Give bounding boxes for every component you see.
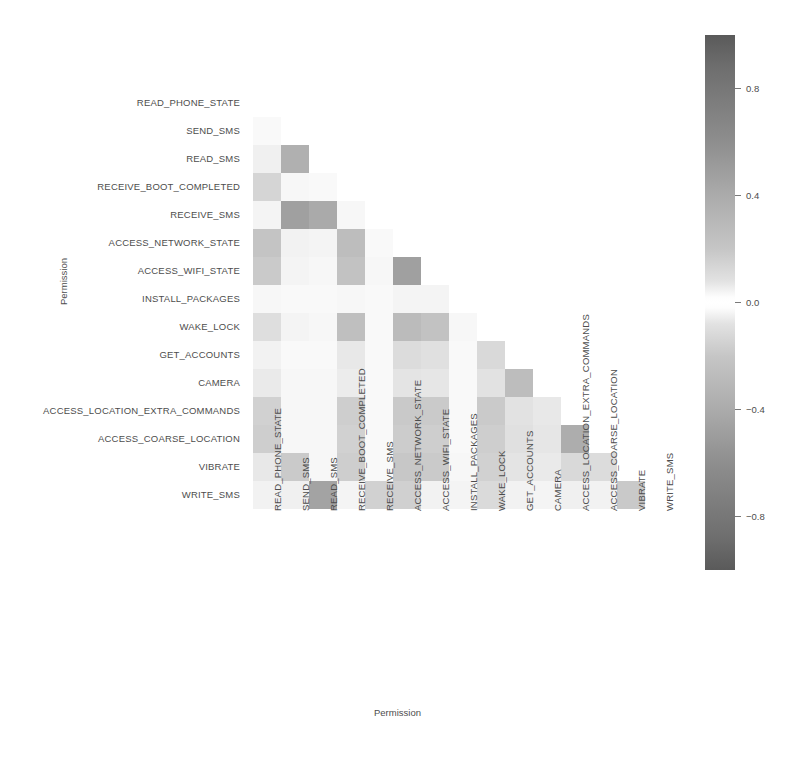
y-axis-tick-label: INSTALL_PACKAGES bbox=[142, 285, 240, 313]
heatmap-cell bbox=[281, 201, 309, 229]
heatmap-cell bbox=[253, 313, 281, 341]
x-axis-tick-label-text: SEND_SMS bbox=[300, 483, 311, 511]
x-axis-tick-label: ACCESS_NETWORK_STATE bbox=[393, 509, 421, 537]
heatmap-cell bbox=[421, 341, 449, 369]
x-axis-tick-label-text: WAKE_LOCK bbox=[496, 483, 507, 511]
heatmap-cell bbox=[253, 145, 281, 173]
x-axis-tick-label: READ_SMS bbox=[309, 509, 337, 537]
colorbar-tick-label: 0.8 bbox=[746, 83, 759, 95]
heatmap-cell bbox=[449, 369, 477, 397]
x-axis-tick-label-text: ACCESS_WIFI_STATE bbox=[440, 483, 451, 511]
heatmap-cell bbox=[309, 369, 337, 397]
heatmap-cell bbox=[253, 173, 281, 201]
x-axis-tick-label: ACCESS_COARSE_LOCATION bbox=[589, 509, 617, 537]
x-axis-tick-label-text: ACCESS_COARSE_LOCATION bbox=[608, 483, 619, 511]
x-axis-tick-label-text: ACCESS_LOCATION_EXTRA_COMMANDS bbox=[580, 483, 591, 511]
heatmap-cell bbox=[309, 257, 337, 285]
colorbar-tick: 0.0 bbox=[735, 297, 795, 309]
heatmap-cell bbox=[505, 397, 533, 425]
heatmap-cell bbox=[253, 257, 281, 285]
colorbar-tick-mark bbox=[735, 88, 741, 89]
x-axis-tick-label: WRITE_SMS bbox=[645, 509, 673, 537]
heatmap-cell bbox=[309, 201, 337, 229]
x-axis-tick-label: GET_ACCOUNTS bbox=[505, 509, 533, 537]
heatmap-cell bbox=[393, 257, 421, 285]
y-axis-tick-label: RECEIVE_BOOT_COMPLETED bbox=[97, 173, 240, 201]
heatmap-cell bbox=[281, 257, 309, 285]
y-axis-tick-label: WAKE_LOCK bbox=[179, 313, 240, 341]
colorbar-tick-mark bbox=[735, 516, 741, 517]
heatmap-cell bbox=[477, 425, 505, 453]
heatmap-cell bbox=[253, 117, 281, 145]
heatmap-cell bbox=[309, 341, 337, 369]
y-axis-tick-label: ACCESS_COARSE_LOCATION bbox=[98, 425, 240, 453]
y-axis-tick-label: VIBRATE bbox=[199, 453, 240, 481]
heatmap-cell bbox=[253, 201, 281, 229]
x-axis-tick-label: VIBRATE bbox=[617, 509, 645, 537]
heatmap-cell bbox=[365, 285, 393, 313]
colorbar-tick-mark bbox=[735, 302, 741, 303]
heatmap-cell bbox=[309, 313, 337, 341]
heatmap-cell bbox=[477, 397, 505, 425]
colorbar-tick: −0.4 bbox=[735, 404, 795, 416]
y-axis-tick-label: WRITE_SMS bbox=[182, 481, 240, 509]
heatmap-cell bbox=[309, 285, 337, 313]
x-axis-tick-label-text: VIBRATE bbox=[636, 483, 647, 511]
x-axis-tick-label-text: READ_PHONE_STATE bbox=[272, 483, 283, 511]
x-axis-tick-label: ACCESS_LOCATION_EXTRA_COMMANDS bbox=[561, 509, 589, 537]
heatmap-cell bbox=[253, 341, 281, 369]
heatmap-cell bbox=[421, 369, 449, 397]
heatmap-cell bbox=[365, 229, 393, 257]
x-axis-tick-label: CAMERA bbox=[533, 509, 561, 537]
heatmap-cell bbox=[365, 397, 393, 425]
colorbar-tick-label: −0.4 bbox=[746, 404, 765, 416]
heatmap-cell bbox=[393, 313, 421, 341]
heatmap-cell bbox=[281, 425, 309, 453]
y-axis-tick-label: GET_ACCOUNTS bbox=[159, 341, 240, 369]
x-axis-tick-label: READ_PHONE_STATE bbox=[253, 509, 281, 537]
colorbar-tick-label: 0.0 bbox=[746, 297, 759, 309]
x-axis-tick-label-text: RECEIVE_BOOT_COMPLETED bbox=[356, 483, 367, 511]
heatmap-cell bbox=[393, 285, 421, 313]
heatmap-cell bbox=[337, 201, 365, 229]
colorbar-gradient bbox=[705, 35, 735, 570]
heatmap-cell bbox=[281, 397, 309, 425]
heatmap-cell bbox=[449, 313, 477, 341]
heatmap-cell bbox=[421, 285, 449, 313]
heatmap-cell bbox=[337, 313, 365, 341]
colorbar-tick-mark bbox=[735, 409, 741, 410]
heatmap-cell bbox=[421, 313, 449, 341]
heatmap-cell bbox=[337, 229, 365, 257]
heatmap-cell bbox=[253, 369, 281, 397]
x-axis-tick-label-text: GET_ACCOUNTS bbox=[524, 483, 535, 511]
colorbar-tick-mark bbox=[735, 195, 741, 196]
heatmap-cell bbox=[505, 369, 533, 397]
heatmap-cell bbox=[337, 285, 365, 313]
heatmap-cell bbox=[281, 229, 309, 257]
x-axis-tick-label-text: READ_SMS bbox=[328, 483, 339, 511]
x-axis-tick-label: SEND_SMS bbox=[281, 509, 309, 537]
heatmap-cell bbox=[337, 257, 365, 285]
y-axis-tick-label: ACCESS_LOCATION_EXTRA_COMMANDS bbox=[43, 397, 240, 425]
y-axis-tick-label: READ_SMS bbox=[186, 145, 240, 173]
heatmap-cell bbox=[309, 425, 337, 453]
heatmap-cell bbox=[253, 229, 281, 257]
heatmap-cell bbox=[281, 285, 309, 313]
y-axis-title: Permission bbox=[58, 258, 69, 305]
x-axis-tick-label-text: ACCESS_NETWORK_STATE bbox=[412, 483, 423, 511]
colorbar-tick-label: −0.8 bbox=[746, 511, 765, 523]
x-axis-tick-label-text: WRITE_SMS bbox=[664, 483, 675, 511]
colorbar-tick-label: 0.4 bbox=[746, 190, 759, 202]
x-axis-tick-label: RECEIVE_SMS bbox=[365, 509, 393, 537]
colorbar-tick: 0.8 bbox=[735, 83, 795, 95]
correlation-heatmap-figure: READ_PHONE_STATESEND_SMSREAD_SMSRECEIVE_… bbox=[0, 0, 795, 766]
heatmap-cell bbox=[281, 313, 309, 341]
heatmap-cell bbox=[281, 369, 309, 397]
heatmap-cell bbox=[281, 145, 309, 173]
heatmap-cell bbox=[281, 341, 309, 369]
x-axis-tick-label-text: CAMERA bbox=[552, 483, 563, 511]
colorbar: 0.80.40.0−0.4−0.8 bbox=[705, 35, 795, 575]
y-axis-tick-label: READ_PHONE_STATE bbox=[137, 89, 240, 117]
heatmap-cell bbox=[365, 313, 393, 341]
x-axis-tick-labels: READ_PHONE_STATESEND_SMSREAD_SMSRECEIVE_… bbox=[253, 509, 673, 684]
